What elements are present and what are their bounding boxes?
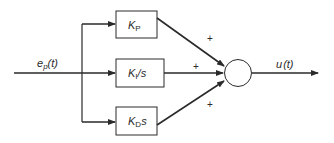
svg-text:KI/s: KI/s: [128, 67, 147, 81]
sign-middle: +: [193, 61, 199, 72]
kd-to-sum-line: [157, 81, 224, 125]
pid-block-diagram: ep(t) KP KI/s KDs + + + u(t): [0, 0, 334, 143]
kp-to-sum-line: [157, 18, 224, 66]
block-integral: KI/s: [116, 59, 164, 87]
sign-top: +: [207, 33, 213, 44]
block-proportional: KP: [116, 11, 157, 38]
input-label: ep(t): [37, 57, 58, 71]
summing-junction: [225, 60, 252, 87]
output-label: u(t): [276, 58, 294, 70]
block-derivative: KDs: [116, 107, 157, 135]
sign-bottom: +: [207, 99, 213, 110]
